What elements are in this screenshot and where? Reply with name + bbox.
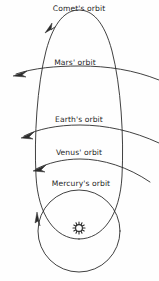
earth-orbit-arrow-icon	[21, 132, 34, 139]
comet-orbit-path	[35, 10, 122, 239]
mars-orbit-arrow-icon	[13, 71, 27, 77]
venus-orbit-arrow-icon	[33, 165, 46, 172]
venus-orbit-label: Venus' orbit	[56, 148, 102, 157]
sun-symbol	[73, 222, 85, 234]
mercury-orbit-arrow-icon	[35, 212, 40, 226]
comet-orbit-label: Comet's orbit	[53, 4, 105, 13]
comet-orbit-group	[35, 10, 122, 239]
earth-orbit-label: Earth's orbit	[55, 115, 103, 124]
earth-orbit-path	[24, 125, 159, 143]
mars-orbit-label: Mars' orbit	[54, 58, 96, 67]
sun-disc-icon	[76, 225, 83, 232]
orbit-diagram-canvas: Comet's orbit Mars' orbit Earth's orbit …	[0, 0, 159, 281]
mars-orbit-group	[13, 66, 159, 80]
sun-rays-icon	[73, 222, 85, 234]
comet-orbit-arrow-icon	[45, 23, 55, 33]
mercury-orbit-label: Mercury's orbit	[52, 179, 110, 188]
earth-orbit-group	[21, 125, 159, 143]
mars-orbit-path	[16, 66, 159, 80]
orbit-diagram: Comet's orbit Mars' orbit Earth's orbit …	[0, 0, 159, 281]
